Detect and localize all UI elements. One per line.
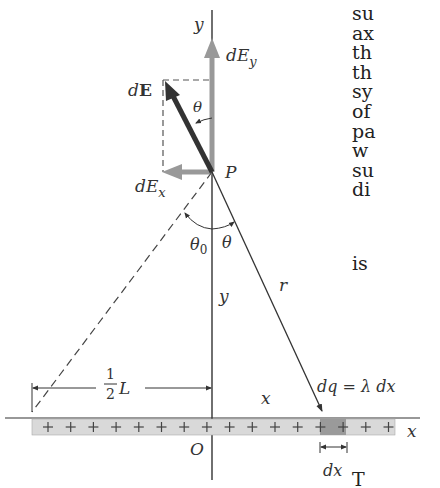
dE-arrowhead (165, 81, 180, 101)
side-text-line: of (352, 102, 376, 122)
side-text-line: di (352, 180, 376, 200)
dEy-label: dEy (226, 45, 257, 69)
x-axis-label: x (407, 421, 417, 441)
side-paragraph: su ax th th sy of pa w su di (352, 4, 376, 200)
dEx-label: dEx (135, 176, 166, 200)
theta-arc-bottom (212, 222, 234, 229)
dq-label: dq = λ dx (317, 377, 396, 396)
half-fraction-denominator: 2 (106, 386, 115, 402)
dx-label: dx (323, 461, 342, 480)
half-L-label: L (118, 378, 130, 398)
dashed-line-to-rod-end (32, 172, 212, 412)
theta0-arc (185, 213, 212, 229)
theta0-label: θ0 (190, 235, 207, 257)
theta-top-label: θ (193, 98, 202, 116)
y-distance-label: y (218, 286, 229, 306)
dEx-arrowhead (162, 164, 182, 180)
r-distance-label: r (279, 275, 288, 295)
dEy-arrowhead (204, 38, 220, 58)
side-text-is: is (352, 254, 368, 274)
side-text-line: w (352, 141, 376, 161)
dE-label: dE (128, 80, 152, 100)
side-text-bottom: T (352, 470, 365, 488)
side-text-line: su (352, 4, 376, 24)
origin-label: O (190, 439, 204, 459)
point-P-label: P (224, 162, 237, 182)
theta-label: θ (222, 233, 232, 252)
side-text-line: th (352, 43, 376, 63)
x-distance-label: x (261, 388, 271, 408)
y-axis-label: y (193, 14, 204, 34)
half-fraction-numerator: 1 (106, 366, 115, 382)
